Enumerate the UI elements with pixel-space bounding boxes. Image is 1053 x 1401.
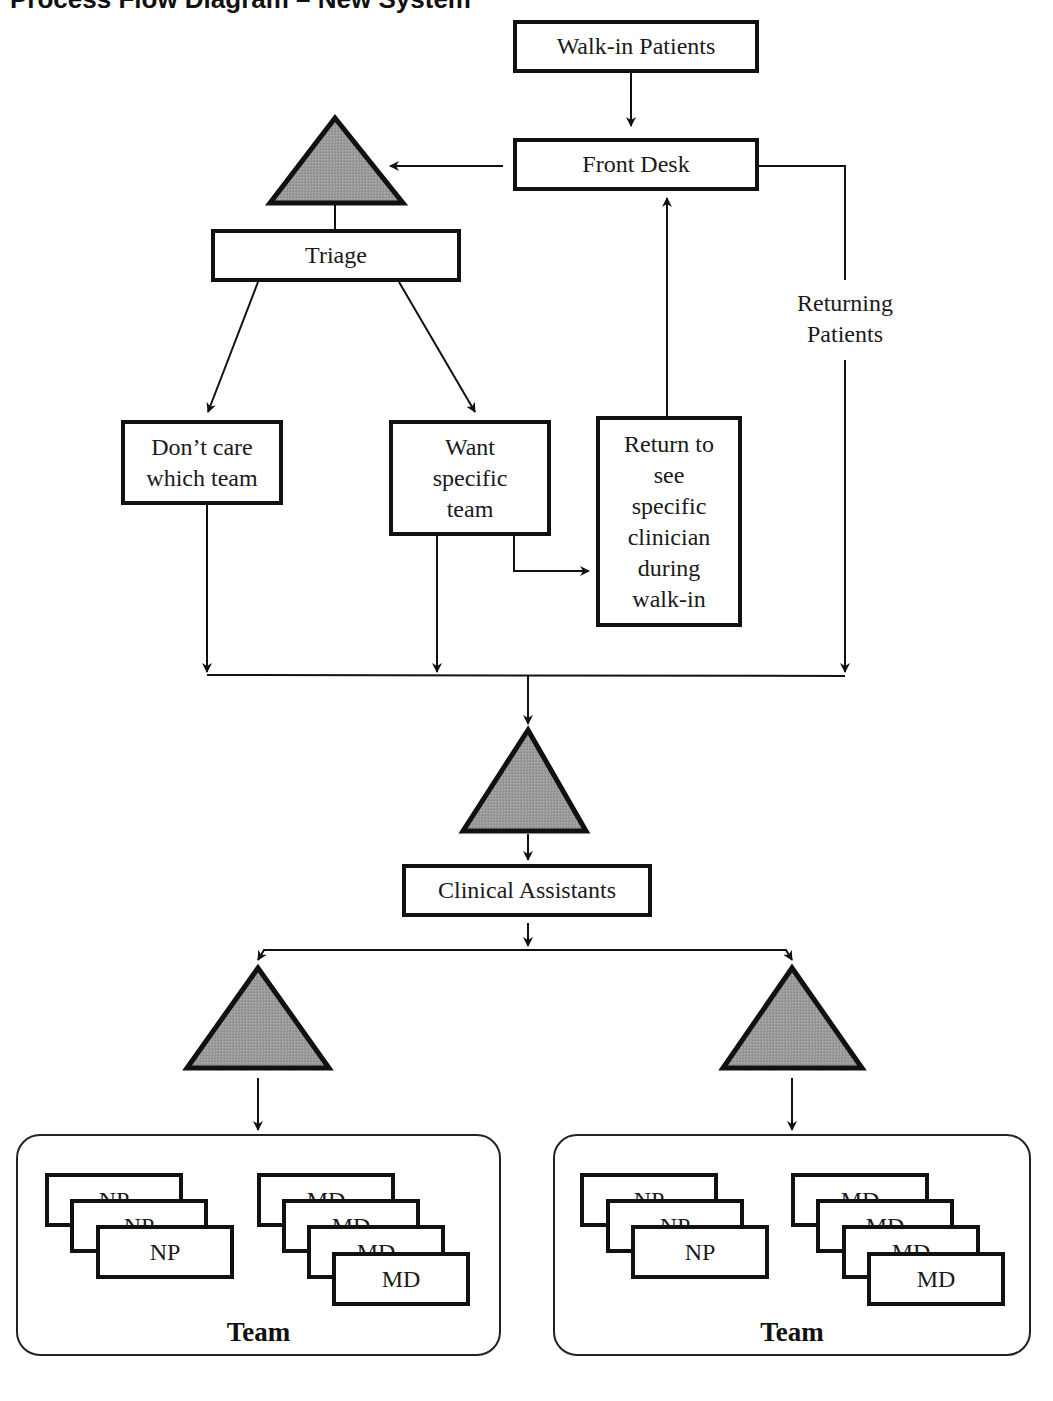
- md-card: MD: [332, 1252, 470, 1306]
- np-card: NP: [96, 1225, 234, 1279]
- team-label: Team: [555, 1317, 1029, 1348]
- node-triage: Triage: [211, 229, 461, 282]
- node-front-desk: Front Desk: [513, 138, 759, 191]
- node-dont-care-which-team: Don’t care which team: [121, 420, 283, 505]
- label-returning-patients: Returning Patients: [785, 288, 905, 350]
- team-label: Team: [18, 1317, 499, 1348]
- edge-triage-wantspecific: [399, 282, 475, 412]
- edge-wantspecific-return: [514, 531, 589, 571]
- node-clinical-assistants: Clinical Assistants: [402, 864, 652, 917]
- team-right: NP NP NP MD MD MD MD Team: [553, 1134, 1031, 1356]
- team-left: NP NP NP MD MD MD MD Team: [16, 1134, 501, 1356]
- queue-triangle-icon: [723, 968, 862, 1068]
- queue-triangle-icon: [463, 730, 586, 831]
- node-want-specific-team: Want specific team: [389, 420, 551, 536]
- node-walk-in-patients: Walk-in Patients: [513, 20, 759, 73]
- edge-frontdesk-returning: [758, 166, 845, 280]
- np-card: NP: [631, 1225, 769, 1279]
- queue-triangle-icon: [187, 968, 329, 1068]
- split-right: [528, 950, 792, 960]
- split-left: [258, 950, 528, 960]
- md-card: MD: [867, 1252, 1005, 1306]
- merge-line: [207, 675, 845, 676]
- edge-triage-dontcare: [208, 282, 258, 412]
- node-return-to-see-specific-clinician: Return to see specific clinician during …: [596, 416, 742, 627]
- queue-triangle-icon: [270, 118, 403, 203]
